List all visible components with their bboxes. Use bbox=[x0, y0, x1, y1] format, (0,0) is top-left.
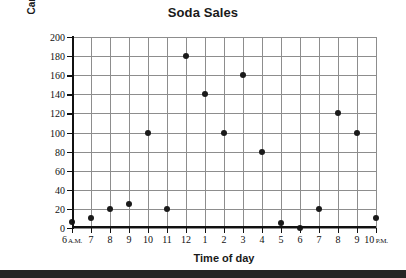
x-tick-label: 8 bbox=[108, 234, 113, 245]
data-point bbox=[183, 53, 189, 59]
plot-area: 020406080100120140160180200 6 A.M.789101… bbox=[72, 37, 376, 228]
x-tick-label: 10 bbox=[143, 234, 153, 245]
gridline-vertical bbox=[91, 37, 92, 228]
gridline-vertical bbox=[186, 37, 187, 228]
y-tick-label: 60 bbox=[55, 165, 65, 176]
x-tick-label: 11 bbox=[162, 234, 172, 245]
chart-figure: Soda Sales Cans sold per hour 0204060801… bbox=[0, 0, 406, 270]
x-axis-tick bbox=[91, 228, 92, 233]
y-tick-label: 0 bbox=[60, 223, 65, 234]
data-point bbox=[240, 72, 246, 78]
data-point bbox=[259, 149, 265, 155]
x-tick-label: 12 bbox=[181, 234, 191, 245]
y-tick-label: 160 bbox=[50, 70, 65, 81]
x-axis-title: Time of day bbox=[72, 252, 376, 264]
x-tick-label: 6 A.M. bbox=[62, 234, 82, 245]
gridline-vertical bbox=[338, 37, 339, 228]
y-tick-label: 180 bbox=[50, 51, 65, 62]
y-tick-label: 80 bbox=[55, 146, 65, 157]
x-axis-tick bbox=[148, 228, 149, 233]
plot-surface: 020406080100120140160180200 6 A.M.789101… bbox=[72, 37, 376, 228]
x-axis-tick bbox=[376, 228, 377, 233]
x-tick-label: 7 bbox=[317, 234, 322, 245]
x-axis-tick bbox=[281, 228, 282, 233]
x-axis-tick bbox=[186, 228, 187, 233]
x-tick-label: 9 bbox=[355, 234, 360, 245]
footer-bar bbox=[0, 270, 406, 278]
gridline-vertical bbox=[262, 37, 263, 228]
x-tick-label: 7 bbox=[89, 234, 94, 245]
gridline-vertical bbox=[129, 37, 130, 228]
gridline-vertical bbox=[319, 37, 320, 228]
x-axis-line bbox=[72, 226, 376, 228]
data-point bbox=[373, 215, 379, 221]
y-tick-label: 20 bbox=[55, 203, 65, 214]
gridline-vertical bbox=[167, 37, 168, 228]
x-axis-tick bbox=[205, 228, 206, 233]
gridline-vertical bbox=[281, 37, 282, 228]
data-point bbox=[126, 201, 132, 207]
x-axis-tick bbox=[224, 228, 225, 233]
x-axis-tick bbox=[129, 228, 130, 233]
data-point bbox=[164, 206, 170, 212]
gridline-vertical bbox=[300, 37, 301, 228]
y-tick-label: 120 bbox=[50, 108, 65, 119]
gridline-vertical bbox=[376, 37, 377, 228]
y-tick-label: 200 bbox=[50, 32, 65, 43]
x-axis-tick bbox=[110, 228, 111, 233]
chart-title: Soda Sales bbox=[0, 5, 406, 20]
data-point bbox=[221, 130, 227, 136]
x-tick-label: 6 bbox=[298, 234, 303, 245]
y-tick-label: 140 bbox=[50, 89, 65, 100]
data-point bbox=[145, 130, 151, 136]
x-tick-label: 3 bbox=[241, 234, 246, 245]
x-axis-tick bbox=[262, 228, 263, 233]
gridline-vertical bbox=[205, 37, 206, 228]
x-tick-label: 5 bbox=[279, 234, 284, 245]
x-tick-label: 10 P.M. bbox=[364, 234, 388, 245]
x-tick-label: 4 bbox=[260, 234, 265, 245]
x-tick-label-meridiem: P.M. bbox=[374, 237, 388, 245]
x-tick-label: 2 bbox=[222, 234, 227, 245]
gridline-vertical bbox=[243, 37, 244, 228]
x-tick-label-meridiem: A.M. bbox=[67, 237, 82, 245]
x-tick-label: 9 bbox=[127, 234, 132, 245]
y-axis-line bbox=[72, 36, 74, 229]
data-point bbox=[107, 206, 113, 212]
x-axis-tick bbox=[243, 228, 244, 233]
y-axis-title: Cans sold per hour bbox=[26, 0, 40, 65]
y-tick-label: 40 bbox=[55, 184, 65, 195]
data-point bbox=[278, 220, 284, 226]
y-tick-label: 100 bbox=[50, 127, 65, 138]
data-point bbox=[354, 130, 360, 136]
x-axis-tick bbox=[319, 228, 320, 233]
data-point bbox=[316, 206, 322, 212]
x-axis-tick bbox=[338, 228, 339, 233]
x-tick-label: 8 bbox=[336, 234, 341, 245]
x-axis-tick bbox=[167, 228, 168, 233]
gridline-vertical bbox=[110, 37, 111, 228]
x-axis-tick bbox=[357, 228, 358, 233]
x-tick-label: 1 bbox=[203, 234, 208, 245]
data-point bbox=[88, 215, 94, 221]
data-point bbox=[202, 91, 208, 97]
data-point bbox=[335, 110, 341, 116]
